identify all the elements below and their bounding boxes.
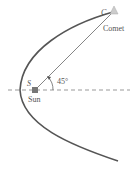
label-comet: Comet [103,24,125,33]
label-c: C [101,8,107,17]
label-s: S [27,79,31,88]
label-sun: Sun [28,95,40,104]
sun-marker [32,87,38,93]
sun-comet-line [35,14,111,90]
orbit-diagram: S Sun C Comet 45° [0,0,134,169]
comet-marker-icon [110,6,118,14]
label-angle: 45° [57,77,68,86]
parabolic-orbit [20,12,118,161]
